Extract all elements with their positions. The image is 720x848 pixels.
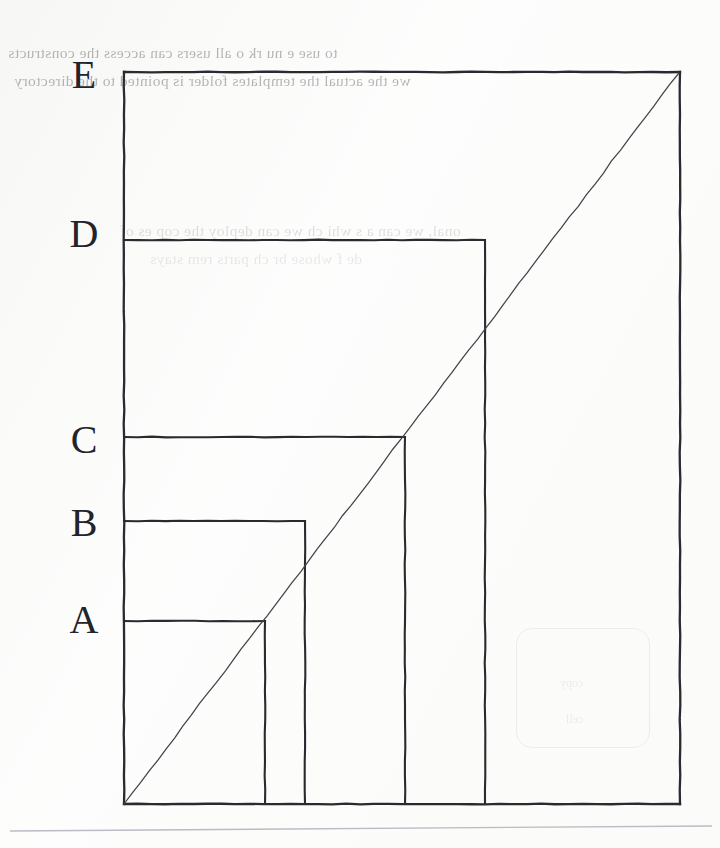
rectangle-label-a: A — [70, 597, 99, 642]
rectangle-b — [124, 521, 305, 804]
rectangle-a-right-edge — [265, 621, 266, 804]
scanned-page: to use e nu rk o all users can access th… — [0, 0, 720, 848]
rectangle-d-right-edge — [485, 240, 486, 804]
rectangle-c-top-edge — [124, 437, 405, 438]
rectangle-c-right-edge — [405, 437, 406, 804]
rectangle-label-b: B — [71, 500, 98, 545]
rectangle-label-c: C — [71, 417, 98, 462]
shared-left-edge — [124, 72, 125, 804]
rectangle-label-e: E — [72, 52, 96, 97]
rectangle-b-top-edge — [124, 521, 305, 522]
diagonal-line — [124, 73, 679, 804]
shared-bottom-edge — [124, 804, 680, 805]
rectangle-label-d: D — [70, 211, 99, 256]
rectangle-b-right-edge — [305, 521, 306, 804]
page-baseline-rule — [10, 826, 712, 831]
nested-rectangles-figure: ABCDE — [0, 0, 720, 848]
rectangle-label-group: ABCDE — [70, 52, 99, 642]
rectangle-d-top-edge — [124, 240, 485, 241]
rectangle-e-top-edge — [124, 72, 680, 73]
rectangle-a-top-edge — [124, 621, 265, 622]
rectangle-e-right-edge — [680, 72, 681, 804]
